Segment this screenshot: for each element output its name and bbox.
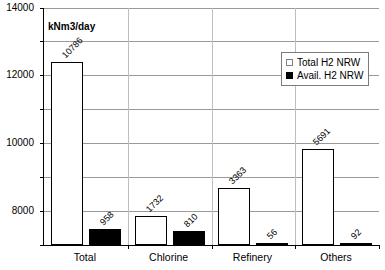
bar: 56 — [256, 243, 288, 245]
chart-legend: Total H2 NRW Avail. H2 NRW — [281, 52, 369, 86]
y-axis-tick: 4000 — [40, 177, 44, 178]
category-separator — [295, 8, 296, 245]
bar: 3363 — [218, 188, 250, 245]
bar: 810 — [173, 231, 205, 245]
legend-label: Avail. H2 NRW — [297, 71, 363, 81]
bar-value-label: 958 — [99, 210, 116, 227]
x-axis-category-label: Refinery — [211, 252, 295, 263]
bar: 1732 — [135, 216, 167, 245]
y-axis-tick: 14000 — [40, 8, 44, 9]
legend-swatch-icon — [286, 59, 293, 66]
x-axis-tick — [295, 245, 296, 249]
bar: 5691 — [302, 149, 334, 245]
bar: 92 — [340, 243, 372, 245]
category-separator — [128, 8, 129, 245]
y-axis-tick: 2000 — [40, 211, 44, 212]
y-axis-label: 10000 — [6, 138, 34, 148]
y-axis-label: 8000 — [12, 206, 34, 216]
y-axis-tick: 0 — [40, 245, 44, 246]
bar-value-label: 10786 — [61, 37, 85, 61]
legend-swatch-icon — [286, 72, 293, 79]
x-axis-category-label: Others — [294, 252, 378, 263]
bar: 10786 — [51, 62, 83, 245]
x-axis-tick — [379, 245, 380, 249]
legend-item-total: Total H2 NRW — [286, 56, 363, 69]
legend-label: Total H2 NRW — [297, 58, 360, 68]
y-axis-label: 14000 — [6, 3, 34, 13]
y-axis-label: 12000 — [6, 70, 34, 80]
x-axis-tick — [128, 245, 129, 249]
bar-value-label: 92 — [350, 228, 363, 241]
bar: 958 — [89, 229, 121, 245]
bar-chart: kNm3/day 0200040006000800010000120001400… — [0, 0, 385, 270]
x-axis-category-label: Chlorine — [127, 252, 211, 263]
x-axis-category-label: Total — [43, 252, 127, 263]
category-separator — [212, 8, 213, 245]
bar-value-label: 56 — [266, 228, 279, 241]
bar-value-label: 810 — [182, 212, 199, 229]
y-axis-tick: 6000 — [40, 143, 44, 144]
y-axis-tick: 12000 — [40, 41, 44, 42]
x-axis-tick — [212, 245, 213, 249]
y-axis-tick: 8000 — [40, 109, 44, 110]
legend-item-avail: Avail. H2 NRW — [286, 69, 363, 82]
y-axis-tick: 10000 — [40, 75, 44, 76]
plot-area: 0200040006000800010000120001400010786958… — [43, 8, 379, 246]
